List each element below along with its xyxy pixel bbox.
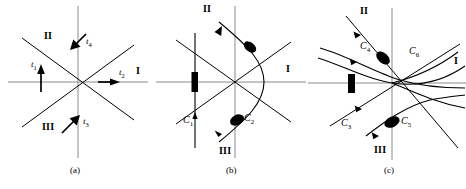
sector-label-III: III [219, 146, 231, 156]
trajectory-arrow-t1 [37, 64, 45, 92]
sector-label-II: II [203, 4, 211, 14]
phase-portrait-figure: II III I t1 t2 t3 t4 (a) [0, 0, 466, 189]
panel-c: II III I C4 C6 C3 C5 (c) [308, 0, 466, 189]
curve-C4-direction-arrow [350, 59, 357, 66]
panel-caption-a: (a) [70, 166, 80, 175]
panel-b: II III I C1 C2 (b) [156, 0, 308, 189]
curve-label-C5: C5 [401, 116, 411, 129]
sector-label-I: I [286, 64, 290, 74]
sector-label-III: III [374, 145, 386, 155]
sector-label-I: I [454, 56, 458, 66]
trajectory-label-t3: t3 [83, 117, 89, 128]
trajectory-label-t1: t1 [31, 60, 37, 71]
curve-label-C6: C6 [409, 46, 419, 59]
sector-label-II: II [360, 6, 368, 16]
trajectory-arrow-t3 [62, 115, 80, 133]
panel-caption-b: (b) [226, 166, 237, 175]
curve-C6 [392, 52, 458, 83]
curve-C2-marker-upper [242, 39, 259, 55]
trajectory-label-t2: t2 [119, 68, 125, 79]
curve-C5 [366, 95, 465, 136]
separatrix-direction-arrow-lower [215, 131, 222, 138]
curve-label-C3: C3 [341, 118, 351, 131]
panel-c-graphic [308, 0, 466, 189]
sector-label-II: II [44, 31, 52, 41]
sector-label-I: I [136, 66, 140, 76]
curve-label-C4: C4 [360, 41, 370, 54]
curve-label-C2: C2 [244, 113, 254, 126]
trajectory-label-t4: t4 [86, 37, 92, 48]
curve-C1-direction-arrow [192, 112, 197, 119]
panel-caption-c: (c) [384, 166, 394, 175]
panel-a: II III I t1 t2 t3 t4 (a) [0, 0, 156, 189]
separatrix-direction-arrow-lower [372, 132, 379, 139]
trajectory-arrow-t2 [98, 78, 120, 85]
curve-C1-marker [192, 72, 199, 92]
origin-bar-marker [348, 74, 355, 93]
separatrix-direction-arrow-upper [215, 26, 223, 36]
curve-label-C1: C1 [183, 115, 193, 128]
sector-label-III: III [42, 122, 54, 132]
panel-a-graphic [0, 0, 156, 189]
curve-lower-right-branch [392, 83, 465, 108]
panel-b-graphic [156, 0, 308, 189]
